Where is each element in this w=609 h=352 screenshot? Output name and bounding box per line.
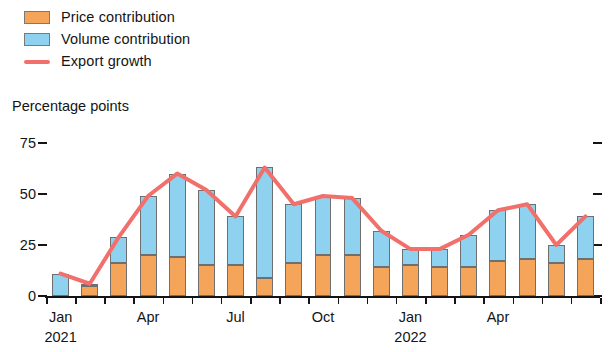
bar-segment-volume xyxy=(198,190,215,265)
x-axis-tick-mark xyxy=(279,298,281,304)
y-axis-tick-label: 0 xyxy=(2,288,36,304)
bar-segment-price xyxy=(489,261,506,296)
bar-segment-volume xyxy=(548,245,565,263)
x-axis-baseline xyxy=(45,296,600,298)
bar-segment-price xyxy=(81,286,98,296)
bar-segment-price xyxy=(577,259,594,296)
bar-segment-volume xyxy=(489,210,506,261)
bar-segment-price xyxy=(285,263,302,296)
export-growth-chart-figure: Price contribution Volume contribution E… xyxy=(0,0,609,352)
y-axis-tick-mark xyxy=(38,142,47,144)
x-axis-tick-mark xyxy=(396,298,398,304)
x-axis-label: Jan xyxy=(399,309,422,325)
x-axis-tick-mark xyxy=(571,298,573,304)
bar-segment-volume xyxy=(431,249,448,267)
bar-segment-volume xyxy=(460,235,477,268)
y-axis-tick-mark-right xyxy=(593,244,602,246)
plot-area: 0255075Jan2021AprJulOctJan2022Apr xyxy=(0,0,609,352)
x-axis-tick-mark xyxy=(425,298,427,304)
bar-segment-price xyxy=(402,265,419,296)
bar-segment-volume xyxy=(140,196,157,255)
y-axis-tick-label: 75 xyxy=(2,135,36,151)
x-axis-tick-mark xyxy=(308,298,310,304)
y-axis-tick-mark xyxy=(38,244,47,246)
x-axis-label: Apr xyxy=(137,309,160,325)
bar-segment-volume xyxy=(285,204,302,263)
x-axis-tick-mark xyxy=(104,298,106,304)
y-axis-tick-mark-right xyxy=(593,295,602,297)
bar-segment-price xyxy=(373,267,390,296)
x-axis-tick-mark xyxy=(192,298,194,304)
x-axis-tick-mark xyxy=(454,298,456,304)
bar-segment-volume xyxy=(577,216,594,259)
x-axis-tick-mark xyxy=(250,298,252,304)
bar-segment-price xyxy=(169,257,186,296)
x-axis-tick-mark xyxy=(46,298,48,304)
y-axis-tick-mark xyxy=(38,193,47,195)
x-axis-tick-mark xyxy=(542,298,544,304)
x-axis-year-label: 2022 xyxy=(394,329,426,345)
x-axis-label: Jul xyxy=(226,309,245,325)
bar-segment-volume xyxy=(344,198,361,255)
x-axis-tick-mark xyxy=(163,298,165,304)
x-axis-tick-mark xyxy=(367,298,369,304)
x-axis-tick-mark xyxy=(483,298,485,304)
x-axis-label: Oct xyxy=(312,309,335,325)
bar-segment-volume xyxy=(52,274,69,296)
y-axis-tick-label: 50 xyxy=(2,186,36,202)
bar-segment-price xyxy=(140,255,157,296)
bar-segment-price xyxy=(110,263,127,296)
bar-segment-price xyxy=(519,259,536,296)
x-axis-tick-mark xyxy=(600,298,602,304)
y-axis-tick-label: 25 xyxy=(2,237,36,253)
bar-segment-price xyxy=(198,265,215,296)
bar-segment-volume xyxy=(81,284,98,286)
bar-segment-volume xyxy=(402,249,419,265)
x-axis-year-label: 2021 xyxy=(44,329,76,345)
bar-segment-volume xyxy=(227,216,244,265)
bar-segment-volume xyxy=(373,231,390,268)
bar-segment-price xyxy=(548,263,565,296)
x-axis-label: Apr xyxy=(487,309,510,325)
bar-segment-price xyxy=(344,255,361,296)
bar-segment-price xyxy=(460,267,477,296)
bar-segment-volume xyxy=(110,237,127,264)
x-axis-tick-mark xyxy=(513,298,515,304)
bar-segment-volume xyxy=(519,204,536,259)
bar-segment-volume xyxy=(256,167,273,277)
y-axis-tick-mark xyxy=(38,295,47,297)
x-axis-tick-mark xyxy=(221,298,223,304)
bar-segment-price xyxy=(431,267,448,296)
bar-segment-volume xyxy=(315,196,332,255)
x-axis-tick-mark xyxy=(338,298,340,304)
y-axis-tick-mark-right xyxy=(593,193,602,195)
x-axis-tick-mark xyxy=(133,298,135,304)
bar-segment-price xyxy=(227,265,244,296)
bar-segment-price xyxy=(315,255,332,296)
y-axis-tick-mark-right xyxy=(593,142,602,144)
x-axis-tick-mark xyxy=(75,298,77,304)
bar-segment-price xyxy=(256,278,273,296)
x-axis-label: Jan xyxy=(49,309,72,325)
bar-segment-volume xyxy=(169,174,186,258)
